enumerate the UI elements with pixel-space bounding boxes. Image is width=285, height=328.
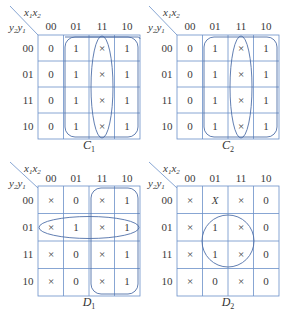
svg-text:1: 1 — [73, 94, 79, 106]
svg-text:0: 0 — [263, 221, 269, 233]
svg-text:1: 1 — [73, 68, 79, 80]
row-header: 11 — [162, 248, 173, 260]
karnaugh-map-c2: x1x2 y2y1 00 01 11 10 00 01 11 10 0 1 × … — [139, 0, 281, 150]
col-header: 10 — [122, 20, 134, 32]
row-header: 11 — [23, 94, 34, 106]
row-var-label: y2y1 — [8, 21, 26, 35]
svg-text:0: 0 — [48, 120, 54, 132]
svg-text:1: 1 — [124, 248, 130, 260]
row-header: 00 — [162, 194, 174, 206]
row-var-label: y2y1 — [8, 177, 26, 191]
svg-text:1: 1 — [73, 221, 79, 233]
row-header: 10 — [23, 275, 35, 287]
svg-text:0: 0 — [263, 275, 269, 287]
svg-text:0: 0 — [73, 194, 79, 206]
svg-text:×: × — [238, 221, 244, 233]
svg-text:1: 1 — [263, 68, 269, 80]
col-var-label: x1x2 — [23, 6, 41, 20]
svg-text:×: × — [238, 68, 244, 80]
svg-text:×: × — [99, 68, 105, 80]
row-header: 11 — [162, 94, 173, 106]
row-header: 11 — [23, 248, 34, 260]
svg-text:×: × — [187, 248, 193, 260]
row-header: 01 — [162, 221, 173, 233]
map-caption: D2 — [208, 295, 248, 311]
svg-text:1: 1 — [212, 120, 218, 132]
svg-text:×: × — [99, 42, 105, 54]
svg-text:×: × — [238, 194, 244, 206]
svg-text:0: 0 — [73, 248, 79, 260]
karnaugh-map-d2: x1x2 y2y1 00 01 11 10 00 01 11 10 × X × … — [139, 156, 281, 306]
svg-text:×: × — [48, 275, 54, 287]
svg-text:0: 0 — [187, 94, 193, 106]
svg-text:×: × — [48, 194, 54, 206]
svg-text:×: × — [187, 221, 193, 233]
col-header: 10 — [122, 172, 134, 184]
svg-text:×: × — [187, 275, 193, 287]
svg-text:0: 0 — [187, 120, 193, 132]
col-header: 01 — [210, 172, 221, 184]
col-header: 11 — [97, 20, 108, 32]
svg-text:1: 1 — [124, 94, 130, 106]
col-header: 00 — [185, 172, 197, 184]
col-header: 01 — [71, 172, 82, 184]
karnaugh-map-c1: x1x2 y2y1 00 01 11 10 00 01 11 10 0 1 × … — [0, 0, 142, 150]
svg-text:×: × — [238, 120, 244, 132]
svg-text:X: X — [211, 194, 220, 206]
svg-text:1: 1 — [124, 221, 130, 233]
col-header: 11 — [97, 172, 108, 184]
col-header: 11 — [236, 172, 247, 184]
svg-text:0: 0 — [187, 68, 193, 80]
row-header: 10 — [162, 120, 174, 132]
svg-text:1: 1 — [212, 94, 218, 106]
col-var-label: x1x2 — [162, 6, 180, 20]
svg-text:1: 1 — [124, 194, 130, 206]
row-header: 00 — [23, 194, 35, 206]
kmap-c1-graphic: x1x2 y2y1 00 01 11 10 00 01 11 10 0 1 × … — [0, 0, 142, 150]
svg-text:1: 1 — [212, 42, 218, 54]
svg-text:1: 1 — [212, 68, 218, 80]
col-header: 10 — [261, 172, 273, 184]
row-header: 01 — [23, 221, 34, 233]
kmap-c2-graphic: x1x2 y2y1 00 01 11 10 00 01 11 10 0 1 × … — [139, 0, 281, 150]
col-header: 11 — [236, 20, 247, 32]
svg-text:0: 0 — [263, 248, 269, 260]
svg-text:×: × — [99, 94, 105, 106]
row-header: 10 — [162, 275, 174, 287]
row-header: 01 — [162, 68, 173, 80]
svg-text:0: 0 — [187, 42, 193, 54]
map-caption: C1 — [69, 138, 109, 154]
col-header: 10 — [261, 20, 273, 32]
kmap-d2-graphic: x1x2 y2y1 00 01 11 10 00 01 11 10 × X × … — [139, 156, 281, 306]
svg-text:1: 1 — [124, 275, 130, 287]
col-var-label: x1x2 — [23, 162, 41, 176]
svg-text:×: × — [48, 248, 54, 260]
svg-text:1: 1 — [124, 68, 130, 80]
col-header: 01 — [210, 20, 221, 32]
svg-text:1: 1 — [263, 42, 269, 54]
svg-text:×: × — [99, 194, 105, 206]
col-header: 00 — [185, 20, 197, 32]
svg-text:1: 1 — [263, 120, 269, 132]
svg-text:1: 1 — [212, 248, 218, 260]
svg-text:0: 0 — [48, 68, 54, 80]
row-header: 00 — [162, 42, 174, 54]
svg-text:1: 1 — [212, 221, 218, 233]
svg-text:0: 0 — [73, 275, 79, 287]
map-caption: D1 — [69, 295, 109, 311]
svg-text:×: × — [48, 221, 54, 233]
svg-text:×: × — [238, 248, 244, 260]
svg-text:×: × — [99, 120, 105, 132]
kmap-d1-graphic: x1x2 y2y1 00 01 11 10 00 01 11 10 × 0 × … — [0, 156, 142, 306]
row-var-label: y2y1 — [147, 177, 165, 191]
svg-text:1: 1 — [124, 120, 130, 132]
map-caption: C2 — [208, 138, 248, 154]
svg-text:1: 1 — [73, 42, 79, 54]
row-var-label: y2y1 — [147, 21, 165, 35]
svg-text:×: × — [187, 194, 193, 206]
karnaugh-map-d1: x1x2 y2y1 00 01 11 10 00 01 11 10 × 0 × … — [0, 156, 142, 306]
svg-text:1: 1 — [124, 42, 130, 54]
svg-text:0: 0 — [48, 94, 54, 106]
svg-text:0: 0 — [263, 194, 269, 206]
svg-text:1: 1 — [263, 94, 269, 106]
